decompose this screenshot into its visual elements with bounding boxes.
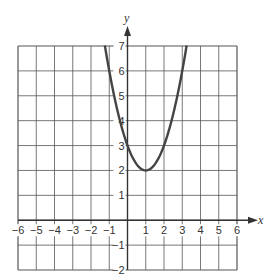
y-axis-label: y <box>123 11 130 25</box>
x-tick-label: −2 <box>85 224 98 236</box>
y-tick-label: −1 <box>112 239 125 251</box>
tick-labels: −6−5−4−3−2−11234567654321−1−2 <box>11 40 241 276</box>
x-tick-label: 2 <box>161 224 167 236</box>
y-tick-label: −2 <box>112 264 125 276</box>
y-tick-label: 1 <box>118 189 124 201</box>
y-tick-label: 3 <box>118 140 124 152</box>
x-tick-label: 6 <box>234 224 240 236</box>
x-tick-label: 4 <box>197 224 203 236</box>
x-tick-label: −5 <box>30 224 43 236</box>
x-axis-arrow-icon <box>248 217 258 224</box>
x-tick-label: −1 <box>103 224 116 236</box>
y-tick-label: 7 <box>118 40 124 52</box>
x-tick-label: −4 <box>48 224 61 236</box>
x-tick-label: −3 <box>66 224 79 236</box>
x-tick-label: 1 <box>143 224 149 236</box>
y-tick-label: 6 <box>118 65 124 77</box>
y-tick-label: 5 <box>118 90 124 102</box>
x-tick-label: −6 <box>12 224 25 236</box>
x-axis-label: x <box>257 213 264 227</box>
x-tick-label: 5 <box>216 224 222 236</box>
y-axis-arrow-icon <box>124 26 131 36</box>
y-tick-label: 2 <box>118 164 124 176</box>
parabola-chart: −6−5−4−3−2−11234567654321−1−2 x y <box>0 0 280 280</box>
x-tick-label: 3 <box>179 224 185 236</box>
